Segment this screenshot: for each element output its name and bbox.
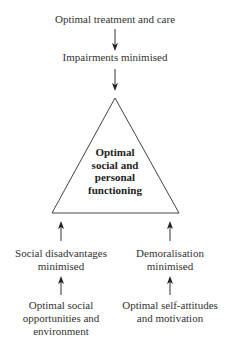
center-line-2: social and (70, 159, 160, 172)
arrow-social-opportunities-to-disadvantages (58, 276, 64, 295)
label-demoralisation: Demoralisation minimised (115, 247, 225, 273)
label-optimal-functioning: Optimal social and personal functioning (70, 146, 160, 196)
social-opportunities-line-1: Optimal social (1, 299, 121, 312)
arrow-social-disadvantages-to-functioning (58, 221, 64, 241)
center-line-1: Optimal (70, 146, 160, 159)
label-impairments-minimised: Impairments minimised (15, 51, 215, 64)
demoralisation-line-2: minimised (115, 260, 225, 273)
label-optimal-treatment: Optimal treatment and care (15, 13, 215, 26)
self-attitudes-line-1: Optimal self-attitudes (112, 299, 228, 312)
social-opportunities-line-2: opportunities and (1, 312, 121, 325)
arrow-treatment-to-impairments (112, 29, 118, 51)
arrow-impairments-to-functioning (112, 69, 118, 91)
arrow-self-attitudes-to-demoralisation (167, 276, 173, 295)
label-social-disadvantages: Social disadvantages minimised (1, 247, 121, 273)
social-disadvantages-line-1: Social disadvantages (1, 247, 121, 260)
arrow-demoralisation-to-functioning (167, 221, 173, 241)
social-opportunities-line-3: environment (1, 325, 121, 338)
demoralisation-line-1: Demoralisation (115, 247, 225, 260)
center-line-4: functioning (70, 184, 160, 197)
social-disadvantages-line-2: minimised (1, 260, 121, 273)
label-optimal-social-opportunities: Optimal social opportunities and environ… (1, 299, 121, 338)
label-optimal-self-attitudes: Optimal self-attitudes and motivation (112, 299, 228, 325)
center-line-3: personal (70, 171, 160, 184)
self-attitudes-line-2: and motivation (112, 312, 228, 325)
